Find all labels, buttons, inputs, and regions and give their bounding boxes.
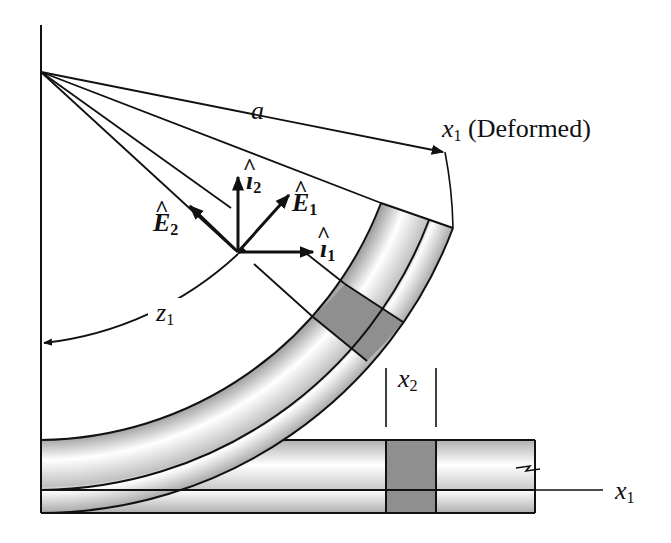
label-z1: z1 (156, 300, 174, 328)
E2-vector (190, 206, 238, 252)
deformed-x1-axis (445, 152, 453, 228)
label-i1: ı1 (320, 236, 335, 264)
label-x1: x1 (615, 478, 635, 506)
label-E1: E1 (292, 190, 317, 218)
radius-a-line (41, 72, 443, 152)
z1-arc-arrow (44, 254, 238, 343)
label-a: a (251, 98, 264, 124)
label-i2: ı2 (246, 168, 261, 196)
E1-vector (238, 195, 289, 252)
beam-deformation-diagram (0, 0, 671, 543)
straight-beam-element (386, 440, 436, 513)
label-x2: x2 (398, 366, 418, 394)
label-x1-deformed: x1 (Deformed) (442, 116, 591, 144)
label-E2: E2 (153, 210, 178, 238)
